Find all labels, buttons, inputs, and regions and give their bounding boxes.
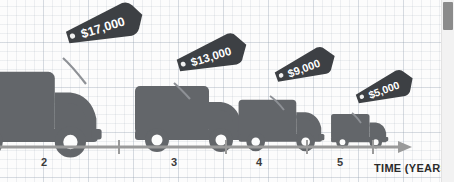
price-tag-year-4: $9,000 (272, 43, 340, 91)
truck-year-2 (0, 72, 102, 158)
vertical-scrollbar[interactable] (441, 0, 454, 182)
x-axis-tick-label-2: 2 (41, 156, 47, 168)
x-axis-tick-label-5: 5 (337, 156, 343, 168)
x-axis-arrowhead (398, 141, 412, 153)
price-tag-year-3: $13,000 (174, 29, 251, 80)
chart-canvas: $17,000 $13,000 $9,000 (0, 0, 454, 182)
depreciation-chart-artwork: $17,000 $13,000 $9,000 (0, 0, 454, 182)
price-tag-year-5: $5,000 (353, 66, 418, 112)
price-tag-year-2: $17,000 (63, 0, 148, 54)
x-axis-tick-label-4: 4 (256, 156, 263, 168)
truck-year-5 (331, 114, 388, 148)
vertical-scrollbar-thumb[interactable] (443, 2, 453, 30)
tag-string-year-2 (63, 58, 86, 84)
x-axis-tick-label-3: 3 (171, 156, 177, 168)
truck-year-3 (135, 86, 245, 152)
